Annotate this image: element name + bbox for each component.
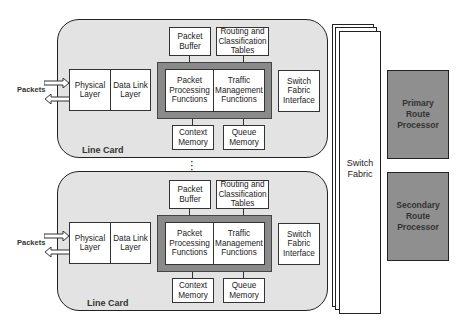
physical-layer-box: Physical Layer [69,222,111,264]
data-link-layer-box: Data Link Layer [110,69,151,111]
packet-processing-functions-box: Packet Processing Functions [165,222,214,265]
packet-buffer-box: Packet Buffer [169,27,211,56]
packets-out-arrow-icon [44,94,70,104]
packets-label: Packets [17,238,45,247]
traffic-management-functions-box: Traffic Management Functions [213,222,265,265]
traffic-management-functions-box: Traffic Management Functions [213,69,265,112]
routing-classification-tables-box: Routing and Classification Tables [216,27,269,56]
line-card-label: Line Card [87,298,129,308]
packets-out-arrow-icon [44,247,70,257]
data-link-layer-box: Data Link Layer [110,222,151,264]
switch-fabric-interface-box: Switch Fabric Interface [278,223,320,265]
packets-in-arrow-icon [44,231,70,241]
packets-in-arrow-icon [44,78,70,88]
queue-memory-box: Queue Memory [223,125,265,150]
primary-route-processor: Primary Route Processor [387,70,449,159]
context-memory-box: Context Memory [172,278,214,303]
switch-fabric-interface-box: Switch Fabric Interface [278,70,320,112]
packet-buffer-box: Packet Buffer [169,180,211,209]
line-card-label: Line Card [82,145,124,155]
switch-fabric-label: Switch Fabric [339,158,381,180]
queue-memory-box: Queue Memory [223,278,265,303]
physical-layer-box: Physical Layer [69,69,111,111]
routing-classification-tables-box: Routing and Classification Tables [216,180,269,209]
packet-processing-functions-box: Packet Processing Functions [165,69,214,112]
packets-label: Packets [17,85,45,94]
context-memory-box: Context Memory [172,125,214,150]
secondary-route-processor: Secondary Route Processor [387,172,449,261]
